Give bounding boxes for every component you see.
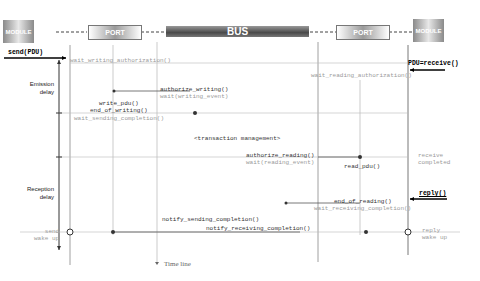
- reply-wake-up-line2: wake up: [422, 234, 447, 241]
- read-pdu-message: read_pdu(): [344, 163, 380, 170]
- wait-reading-authorization-message: wait_reading_authorization(): [311, 72, 412, 79]
- reception-label-line2: delay: [2, 193, 54, 201]
- send-pdu-message: send(PDU): [8, 49, 43, 56]
- wait-writing-authorization-message: wait_writing_authorization(): [70, 57, 171, 64]
- emission-label-line1: Emission: [2, 80, 54, 88]
- wait-reading-event-message: wait(reading_event): [246, 159, 314, 166]
- end-of-writing-message: end_of_writing(): [90, 107, 148, 114]
- receive-completed-line1: receive: [418, 152, 450, 159]
- emission-delay-label: Emission delay: [2, 80, 54, 96]
- module-left-header: MODULE: [3, 20, 34, 43]
- time-line-label: Time line: [164, 260, 191, 268]
- pdu-receive-message: PDU=receive(): [408, 60, 459, 67]
- emission-label-line2: delay: [2, 88, 54, 96]
- wait-receiving-completion-message: wait_receiving_completion(): [314, 205, 411, 212]
- notify-receiving-completion-message: notify_receiving_completion(): [206, 225, 310, 232]
- bus-header: BUS: [166, 26, 309, 37]
- transaction-management-note: <transaction management>: [194, 135, 280, 142]
- reception-delay-label: Reception delay: [2, 185, 54, 201]
- port-left-header: PORT: [88, 25, 142, 40]
- end-of-reading-message: end_of_reading(): [334, 198, 392, 205]
- send-wake-up-line1: send: [34, 228, 59, 235]
- port-right-header: PORT: [336, 25, 390, 40]
- reply-wake-up-line1: reply: [422, 227, 447, 234]
- send-wake-up-line2: wake up: [34, 235, 59, 242]
- reply-wake-up-note: reply wake up: [422, 227, 447, 241]
- notify-sending-completion-message: notify_sending_completion(): [162, 216, 259, 223]
- reply-message: reply(): [419, 190, 446, 197]
- receive-completed-note: receive completed: [418, 152, 450, 166]
- reception-label-line1: Reception: [2, 185, 54, 193]
- send-wake-up-note: send wake up: [34, 228, 59, 242]
- authorize-writing-message: authorize_writing(): [160, 86, 228, 93]
- wait-writing-event-message: wait(writing_event): [160, 93, 228, 100]
- authorize-reading-message: authorize_reading(): [246, 152, 314, 159]
- module-right-header: MODULE: [413, 19, 444, 42]
- wait-sending-completion-message: wait_sending_completion(): [74, 115, 164, 122]
- write-pdu-message: write_pdu(): [99, 100, 139, 107]
- receive-completed-line2: completed: [418, 159, 450, 166]
